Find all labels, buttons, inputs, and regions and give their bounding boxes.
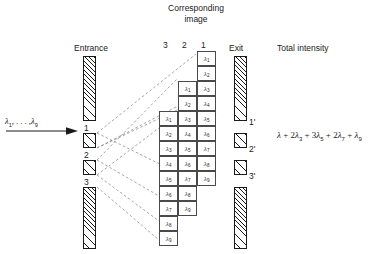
grid-cell-r4-c2: λ2 (178, 96, 197, 111)
lambda-symbol: λ4 (204, 100, 210, 108)
lambda-symbol: λ3 (166, 145, 172, 153)
lambda-subscript: 8 (207, 163, 210, 168)
lambda-subscript: 5 (169, 178, 172, 183)
grid-cell-r6-c3: λ2 (159, 126, 178, 141)
grid-cell-r8-c1: λ8 (197, 156, 216, 171)
lambda-subscript: 8 (169, 223, 172, 228)
lambda-symbol: λ8 (166, 220, 172, 228)
grid-cell-r3-c2: λ1 (178, 81, 197, 96)
lambda-subscript: 9 (169, 238, 172, 243)
lambda-subscript: 3 (207, 88, 210, 93)
lambda-subscript: 2 (188, 103, 191, 108)
lambda-symbol: λ5 (166, 175, 172, 183)
lambda-symbol: λ6 (185, 160, 191, 168)
corresponding-image-grid: λ1λ2λ1λ3λ2λ4λ1λ3λ5λ2λ4λ6λ3λ5λ7λ4λ6λ8λ5λ7… (0, 0, 381, 254)
lambda-symbol: λ5 (204, 115, 210, 123)
grid-cell-r10-c2: λ8 (178, 186, 197, 201)
lambda-symbol: λ2 (185, 100, 191, 108)
lambda-symbol: λ4 (166, 160, 172, 168)
grid-cell-r5-c2: λ3 (178, 111, 197, 126)
lambda-subscript: 4 (169, 163, 172, 168)
formula-plus: + (324, 130, 334, 140)
lambda-symbol: λ2 (204, 70, 210, 78)
formula-plus: + (302, 130, 312, 140)
lambda-symbol: λ5 (185, 145, 191, 153)
grid-cell-r3-c1: λ3 (197, 81, 216, 96)
lambda-subscript: 9 (207, 178, 210, 183)
lambda-subscript: 1 (188, 88, 191, 93)
total-intensity-formula-text: λ + 2λ3 + 3λ5 + 2λ7 + λ9 (277, 130, 362, 140)
lambda-symbol: λ1 (166, 115, 172, 123)
lambda-subscript: 8 (188, 193, 191, 198)
lambda-symbol: λ7 (185, 175, 191, 183)
lambda-subscript: 4 (207, 103, 210, 108)
lambda-subscript: 9 (188, 208, 191, 213)
diagram-canvas: Corresponding image Entrance Exit Total … (0, 0, 381, 254)
grid-cell-r5-c1: λ5 (197, 111, 216, 126)
grid-cell-r1-c1: λ1 (197, 51, 216, 66)
lambda-subscript: 2 (169, 133, 172, 138)
lambda-symbol: λ1 (185, 85, 191, 93)
formula-lambda-subscript: 9 (358, 136, 361, 142)
grid-cell-r8-c2: λ6 (178, 156, 197, 171)
lambda-symbol: λ4 (185, 130, 191, 138)
grid-cell-r7-c2: λ5 (178, 141, 197, 156)
lambda-subscript: 4 (188, 133, 191, 138)
grid-cell-r5-c3: λ1 (159, 111, 178, 126)
lambda-symbol: λ3 (185, 115, 191, 123)
lambda-subscript: 5 (207, 118, 210, 123)
grid-cell-r6-c2: λ4 (178, 126, 197, 141)
lambda-symbol: λ1 (204, 55, 210, 63)
lambda-symbol: λ8 (185, 190, 191, 198)
lambda-subscript: 3 (169, 148, 172, 153)
grid-cell-r7-c3: λ3 (159, 141, 178, 156)
lambda-subscript: 6 (207, 133, 210, 138)
grid-cell-r8-c3: λ4 (159, 156, 178, 171)
grid-cell-r6-c1: λ6 (197, 126, 216, 141)
grid-cell-r10-c3: λ6 (159, 186, 178, 201)
lambda-symbol: λ9 (166, 235, 172, 243)
lambda-symbol: λ6 (204, 130, 210, 138)
lambda-subscript: 6 (169, 193, 172, 198)
total-intensity-formula: λ + 2λ3 + 3λ5 + 2λ7 + λ9 (277, 130, 362, 142)
grid-cell-r9-c2: λ7 (178, 171, 197, 186)
grid-cell-r11-c2: λ9 (178, 201, 197, 216)
lambda-symbol: λ3 (204, 85, 210, 93)
lambda-symbol: λ6 (166, 190, 172, 198)
lambda-symbol: λ9 (204, 175, 210, 183)
grid-cell-r2-c1: λ2 (197, 66, 216, 81)
lambda-subscript: 1 (207, 58, 210, 63)
lambda-symbol: λ9 (185, 205, 191, 213)
lambda-symbol: λ7 (204, 145, 210, 153)
lambda-subscript: 7 (169, 208, 172, 213)
grid-cell-r4-c1: λ4 (197, 96, 216, 111)
lambda-subscript: 5 (188, 148, 191, 153)
lambda-subscript: 7 (188, 178, 191, 183)
grid-cell-r12-c3: λ8 (159, 216, 178, 231)
lambda-subscript: 3 (188, 118, 191, 123)
grid-cell-r9-c1: λ9 (197, 171, 216, 186)
lambda-subscript: 6 (188, 163, 191, 168)
lambda-subscript: 1 (169, 118, 172, 123)
lambda-symbol: λ8 (204, 160, 210, 168)
lambda-symbol: λ2 (166, 130, 172, 138)
grid-cell-r11-c3: λ7 (159, 201, 178, 216)
lambda-subscript: 7 (207, 148, 210, 153)
lambda-subscript: 2 (207, 73, 210, 78)
grid-cell-r9-c3: λ5 (159, 171, 178, 186)
lambda-symbol: λ7 (166, 205, 172, 213)
grid-cell-r13-c3: λ9 (159, 231, 178, 246)
grid-cell-r7-c1: λ7 (197, 141, 216, 156)
